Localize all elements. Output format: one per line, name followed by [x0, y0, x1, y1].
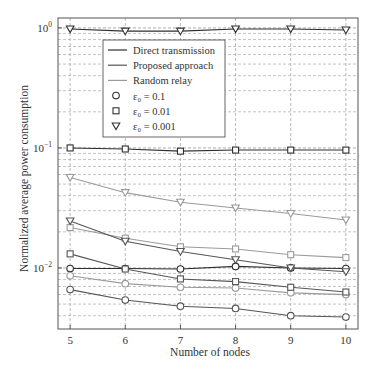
- series-line: [70, 276, 346, 295]
- circle-marker: [67, 273, 74, 280]
- line-chart: 10010−110−2 5678910 Number of nodes Norm…: [0, 0, 377, 373]
- square-marker: [343, 255, 349, 261]
- square-marker: [177, 148, 183, 154]
- triangle-down-marker: [66, 218, 74, 225]
- square-marker: [122, 266, 128, 272]
- legend-label: Proposed approach: [133, 60, 214, 71]
- legend-label: Random relay: [133, 75, 193, 86]
- legend-label: ε₀ = 0.01: [133, 106, 171, 117]
- circle-marker: [122, 280, 129, 287]
- circle-marker: [113, 92, 120, 99]
- y-axis-label: Normalized average power consumption: [18, 85, 31, 272]
- circle-marker: [177, 284, 184, 291]
- x-tick-label: 5: [67, 334, 73, 346]
- y-tick-label: 100: [37, 20, 52, 34]
- square-marker: [288, 252, 294, 258]
- y-tick-label: 10−2: [33, 260, 52, 274]
- circle-marker: [67, 286, 74, 293]
- series-line: [70, 148, 346, 151]
- circle-marker: [67, 265, 74, 272]
- series-proposed-approach-eps-0.01: [67, 251, 349, 295]
- x-axis-ticks: 5678910: [67, 325, 351, 346]
- square-marker: [122, 146, 128, 152]
- series-direct-transmission-eps-0.01: [67, 145, 349, 154]
- square-marker: [288, 284, 294, 290]
- series-random-relay-eps-0.001: [66, 174, 349, 223]
- square-marker: [233, 246, 239, 252]
- series-proposed-approach-eps-0.1: [67, 286, 349, 320]
- series-proposed-approach-eps-0.001: [66, 218, 349, 275]
- square-marker: [233, 147, 239, 153]
- square-marker: [343, 289, 349, 295]
- x-tick-label: 10: [340, 334, 352, 346]
- legend-label: Direct transmission: [133, 45, 216, 56]
- circle-marker: [287, 312, 294, 319]
- circle-marker: [122, 297, 129, 304]
- series-random-relay-eps-0.1: [67, 273, 349, 298]
- legend-label: ε₀ = 0.001: [133, 121, 176, 132]
- x-tick-label: 9: [288, 334, 294, 346]
- triangle-down-marker: [342, 217, 350, 224]
- square-marker: [288, 147, 294, 153]
- square-marker: [233, 279, 239, 285]
- circle-marker: [232, 285, 239, 292]
- x-axis-label: Number of nodes: [170, 346, 250, 358]
- y-tick-label: 10−1: [33, 140, 52, 154]
- series-line: [70, 29, 346, 31]
- circle-marker: [343, 314, 350, 321]
- legend-label: ε₀ = 0.1: [133, 91, 165, 102]
- x-tick-label: 7: [178, 334, 184, 346]
- x-tick-label: 8: [233, 334, 239, 346]
- square-marker: [67, 145, 73, 151]
- series-line: [70, 221, 346, 272]
- square-marker: [67, 251, 73, 257]
- circle-marker: [177, 303, 184, 310]
- square-marker: [177, 276, 183, 282]
- circle-marker: [232, 305, 239, 312]
- circle-marker: [177, 266, 184, 273]
- square-marker: [343, 147, 349, 153]
- legend: Direct transmissionProposed approachRand…: [103, 40, 225, 137]
- x-tick-label: 6: [123, 334, 129, 346]
- square-marker: [113, 108, 119, 114]
